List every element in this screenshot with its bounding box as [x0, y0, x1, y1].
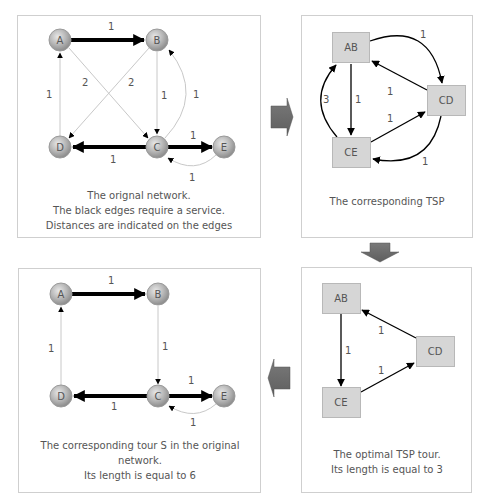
svg-text:1: 1 [189, 172, 195, 183]
tour-node-a: A [50, 283, 72, 305]
svg-text:C: C [154, 142, 161, 153]
opt-node-cd: CD [417, 337, 455, 367]
down-arrow-icon [361, 243, 399, 262]
tour-node-e: E [213, 385, 235, 407]
caption-optimal-tsp-tour: The optimal TSP tour. Its length is equa… [302, 447, 472, 477]
tour-node-b: B [147, 283, 169, 305]
svg-text:D: D [56, 142, 64, 153]
svg-text:1: 1 [190, 130, 196, 141]
svg-text:1: 1 [110, 154, 116, 165]
tsp-node-ce: CE [333, 138, 371, 168]
svg-text:1: 1 [190, 417, 196, 428]
svg-text:A: A [57, 35, 64, 46]
svg-text:1: 1 [387, 113, 393, 124]
svg-text:3: 3 [323, 94, 329, 105]
tour-node-d: D [50, 385, 72, 407]
caption-corresponding-tsp: The corresponding TSP [302, 194, 472, 209]
opt-node-ce: CE [323, 388, 361, 418]
tsp-node-cd: CD [428, 86, 466, 116]
diagram-canvas: 1 2 2 1 1 1 1 1 1 A B D C E 1 1 [0, 0, 486, 503]
opt-node-ab: AB [323, 284, 361, 314]
node-a: A [49, 29, 71, 51]
svg-text:AB: AB [344, 42, 358, 53]
right-arrow-icon [271, 98, 293, 136]
node-b: B [146, 29, 168, 51]
node-d: D [49, 136, 71, 158]
svg-text:CD: CD [439, 95, 454, 106]
left-arrow-icon [268, 359, 290, 397]
svg-text:1: 1 [420, 29, 426, 40]
svg-text:CE: CE [334, 397, 347, 408]
node-e: E [213, 136, 235, 158]
svg-text:1: 1 [108, 275, 114, 286]
svg-text:1: 1 [378, 365, 384, 376]
svg-text:C: C [155, 391, 162, 402]
svg-text:CE: CE [344, 147, 357, 158]
svg-text:2: 2 [128, 77, 134, 88]
tour-node-c: C [147, 385, 169, 407]
svg-text:1: 1 [161, 90, 167, 101]
svg-text:1: 1 [355, 94, 361, 105]
svg-text:A: A [58, 289, 65, 300]
svg-text:1: 1 [193, 89, 199, 100]
tsp-node-ab: AB [333, 33, 370, 63]
svg-text:B: B [154, 35, 161, 46]
svg-text:1: 1 [46, 89, 52, 100]
svg-text:1: 1 [188, 375, 194, 386]
svg-text:AB: AB [334, 293, 348, 304]
svg-text:E: E [221, 391, 227, 402]
svg-text:1: 1 [345, 345, 351, 356]
svg-text:1: 1 [48, 343, 54, 354]
caption-tour-in-original: The corresponding tour S in the original… [19, 438, 261, 483]
node-c: C [146, 136, 168, 158]
svg-text:1: 1 [108, 21, 114, 32]
svg-text:1: 1 [422, 156, 428, 167]
svg-text:1: 1 [387, 86, 393, 97]
svg-text:1: 1 [111, 401, 117, 412]
svg-text:E: E [221, 142, 227, 153]
svg-text:CD: CD [428, 346, 443, 357]
svg-text:1: 1 [378, 325, 384, 336]
svg-text:B: B [155, 289, 162, 300]
caption-original-network: The orignal network. The black edges req… [18, 188, 260, 233]
svg-text:D: D [57, 391, 65, 402]
svg-text:2: 2 [82, 77, 88, 88]
svg-text:1: 1 [162, 341, 168, 352]
